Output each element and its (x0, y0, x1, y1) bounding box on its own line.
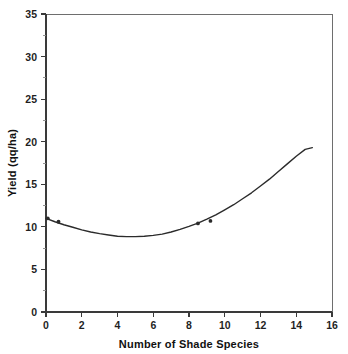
data-point (209, 219, 213, 223)
y-tick-label: 10 (25, 221, 37, 233)
x-tick-label: 14 (290, 319, 302, 331)
y-tick-label: 5 (31, 263, 37, 275)
y-tick-label: 35 (25, 8, 37, 20)
chart-figure: 35 30 25 20 15 10 5 0 0 2 4 6 8 (0, 0, 348, 354)
x-axis-major-ticks (46, 312, 332, 317)
y-tick-label: 20 (25, 136, 37, 148)
x-tick-label: 16 (326, 319, 338, 331)
data-series-layer (46, 148, 312, 237)
data-point (46, 216, 50, 220)
x-tick-label: 4 (115, 319, 121, 331)
x-tick-label: 2 (79, 319, 85, 331)
x-tick-label: 10 (219, 319, 231, 331)
data-point (196, 222, 200, 226)
y-tick-label: 30 (25, 51, 37, 63)
y-tick-label: 25 (25, 93, 37, 105)
y-axis-title: Yield (qq/ha) (6, 129, 18, 197)
x-axis-tick-labels: 0 2 4 6 8 10 12 14 16 (43, 319, 338, 331)
x-tick-label: 12 (255, 319, 267, 331)
x-tick-label: 0 (43, 319, 49, 331)
y-tick-label: 0 (31, 306, 37, 318)
x-tick-label: 8 (186, 319, 192, 331)
x-tick-label: 6 (150, 319, 156, 331)
y-axis-tick-labels: 35 30 25 20 15 10 5 0 (25, 8, 37, 318)
x-axis-title: Number of Shade Species (119, 338, 259, 350)
data-point (57, 220, 61, 224)
yield-curve (46, 148, 312, 237)
yield-vs-shade-species-chart: 35 30 25 20 15 10 5 0 0 2 4 6 8 (0, 0, 348, 354)
y-tick-label: 15 (25, 178, 37, 190)
